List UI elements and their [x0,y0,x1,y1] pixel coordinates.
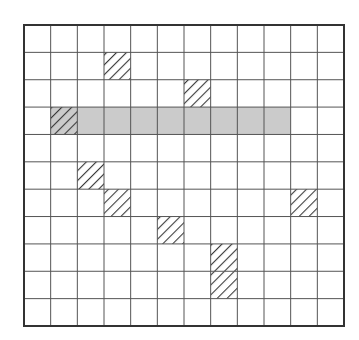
hatched-cell [184,80,211,107]
highlighted-band [51,107,291,134]
hatched-cell [104,52,131,79]
grid-lines-layer [24,25,344,326]
hatched-cell [104,189,131,216]
hatched-cell [77,162,104,189]
hatched-cell [51,107,78,134]
grid-diagram [0,0,359,340]
hatched-cell [157,217,184,244]
highlight-band-layer [51,107,291,134]
hatched-cell [211,244,238,271]
hatched-cell [211,271,238,298]
hatched-cell [291,189,318,216]
